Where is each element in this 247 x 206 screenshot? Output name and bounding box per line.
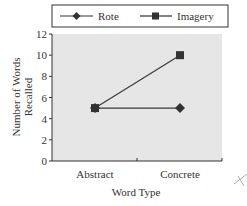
legend-label-rote: Rote bbox=[98, 10, 119, 22]
svg-text:Recalled: Recalled bbox=[22, 77, 34, 116]
y-tick-label: 6 bbox=[42, 92, 48, 104]
pencil-mark-icon bbox=[234, 174, 247, 186]
y-tick-label: 0 bbox=[42, 155, 48, 167]
legend: Rote Imagery bbox=[52, 5, 228, 27]
y-tick-label: 8 bbox=[42, 70, 48, 82]
y-tick-label: 12 bbox=[36, 28, 47, 40]
y-tick-label: 10 bbox=[36, 49, 48, 61]
y-tick-label: 2 bbox=[42, 134, 48, 146]
plot-area bbox=[52, 34, 222, 161]
y-axis-ticks: 024681012 bbox=[36, 28, 52, 167]
svg-text:Number of Words: Number of Words bbox=[10, 58, 22, 137]
y-axis-label: Number of Words Recalled bbox=[10, 58, 34, 137]
x-tick-abstract: Abstract bbox=[76, 168, 113, 180]
square-marker-icon bbox=[152, 13, 159, 20]
square-marker-icon bbox=[176, 51, 184, 59]
y-tick-label: 4 bbox=[42, 113, 48, 125]
line-chart: Rote Imagery 024681012 Abstract Concrete… bbox=[0, 0, 247, 206]
legend-label-imagery: Imagery bbox=[177, 10, 214, 22]
square-marker-icon bbox=[91, 104, 99, 112]
x-axis-label: Word Type bbox=[112, 186, 161, 198]
x-tick-concrete: Concrete bbox=[160, 168, 200, 180]
